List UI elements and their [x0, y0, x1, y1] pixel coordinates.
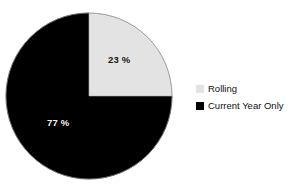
legend-item-label: Rolling: [208, 83, 237, 94]
legend-item-label: Current Year Only: [208, 100, 284, 111]
legend-item-rolling[interactable]: Rolling: [196, 81, 298, 96]
square-swatch-icon: [196, 102, 204, 110]
chart-legend: Rolling Current Year Only: [196, 81, 298, 115]
pie-slice-label-current-year-only: 77 %: [47, 117, 69, 128]
legend-item-current-year-only[interactable]: Current Year Only: [196, 98, 298, 113]
pie-slice-rolling: [89, 13, 172, 96]
pie-slice-label-rolling: 23 %: [108, 54, 130, 65]
pie-plot-area: 23 % 77 %: [0, 0, 190, 191]
pie-chart-figure: 23 % 77 % Rolling Current Year Only: [0, 0, 300, 191]
square-swatch-icon: [196, 85, 204, 93]
pie-chart-svg: [0, 0, 190, 191]
